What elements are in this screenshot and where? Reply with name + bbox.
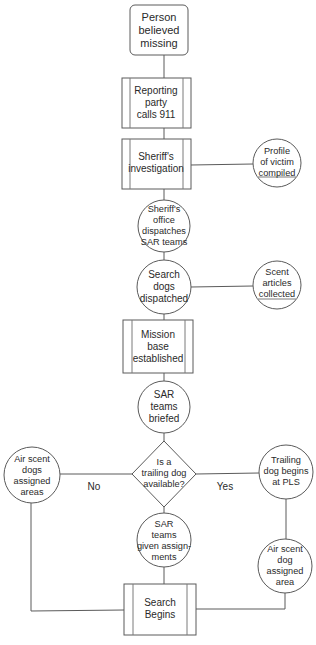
node-label-line: dog begins [264, 466, 309, 476]
node-profile-of-victim: Profile of victim compiled [253, 139, 301, 187]
node-label-line: Person [142, 11, 177, 23]
node-label-line: SAR [155, 519, 174, 529]
node-label-line: Air scent [267, 544, 303, 554]
flowchart: Person believed missing Reporting party … [0, 0, 316, 645]
node-label-line: SAR [154, 389, 175, 400]
node-label-line: SAR teams [141, 237, 188, 247]
node-label-line: dogs [153, 281, 175, 292]
node-label-line: Air scent [14, 454, 50, 464]
node-label-line: base [147, 341, 169, 352]
edge-investigation-profile [191, 164, 253, 165]
node-label-line: briefed [149, 413, 180, 424]
node-label-line: trailing dog [142, 468, 187, 478]
node-mission-base: Mission base established [123, 320, 193, 373]
node-scent-articles: Scent articles collected [253, 261, 301, 309]
node-label-line: given assign- [137, 541, 191, 551]
node-label-line: dog [277, 555, 292, 565]
node-label-line: Reporting [134, 85, 177, 96]
node-sar-teams-briefed: SAR teams briefed [138, 381, 190, 433]
node-label-line: dispatched [140, 293, 188, 304]
node-decision-trailing-dog: Is a trailing dog available? [132, 441, 196, 507]
node-trailing-dog-pls: Trailing dog begins at PLS [259, 445, 313, 499]
node-reporting-party: Reporting party calls 911 [122, 78, 191, 128]
node-sheriffs-investigation: Sheriff's investigation [122, 139, 191, 189]
node-label-line: at PLS [272, 477, 300, 487]
node-label-line: established [133, 353, 184, 364]
node-air-scent-dogs-areas: Air scent dogs assigned areas [4, 447, 60, 503]
node-label-line: teams [150, 401, 177, 412]
node-label-line: office [153, 215, 175, 225]
node-label-line: areas [21, 487, 44, 497]
edge-label-yes: Yes [217, 481, 233, 492]
node-label-line: Scent [265, 267, 289, 277]
node-label-line: Sheriff's [138, 151, 174, 162]
node-label-line: Is a [157, 457, 173, 467]
node-label-line: assigned [267, 566, 304, 576]
node-label-line: teams [151, 530, 176, 540]
node-search-dogs-dispatched: Search dogs dispatched [137, 260, 191, 314]
node-sheriffs-office-dispatches: Sheriff's office dispatches SAR teams [138, 200, 190, 252]
edge-airscent-area-search [196, 593, 285, 609]
node-label-line: collected [259, 289, 295, 299]
node-label-line: Profile [264, 146, 290, 156]
node-person-believed-missing: Person believed missing [130, 5, 188, 55]
node-air-scent-dog-area: Air scent dog assigned area [258, 539, 312, 593]
node-label-line: dispatches [142, 226, 186, 236]
node-label-line: available? [143, 479, 184, 489]
node-label-line: Trailing [271, 455, 301, 465]
edge-decision-yes [196, 473, 259, 474]
node-search-begins: Search Begins [124, 584, 196, 635]
edge-airscent-areas-search [31, 503, 124, 611]
node-label-line: Begins [145, 609, 176, 620]
node-label-line: investigation [128, 163, 184, 174]
node-label-line: articles [262, 278, 292, 288]
node-label-line: area [276, 577, 295, 587]
node-label-line: assigned [14, 476, 51, 486]
node-label-line: dogs [22, 465, 42, 475]
node-label-line: Search [148, 269, 180, 280]
node-sar-teams-assignments: SAR teams given assign- ments [137, 513, 191, 567]
node-label-line: Search [144, 597, 176, 608]
node-label-line: compiled [259, 168, 296, 178]
node-label-line: Mission [141, 329, 175, 340]
edge-label-no: No [88, 481, 101, 492]
node-label-line: ments [151, 552, 176, 562]
node-label-line: believed [139, 24, 180, 36]
node-label-line: Sheriff's [148, 204, 181, 214]
edge-dogs-scent [191, 286, 253, 287]
node-label-line: missing [140, 37, 177, 49]
node-label-line: calls 911 [137, 109, 176, 120]
node-label-line: of victim [260, 157, 294, 167]
node-label-line: party [145, 97, 167, 108]
